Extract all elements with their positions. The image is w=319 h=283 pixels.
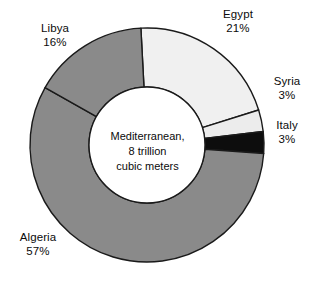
slice-label-egypt-percent: 21% — [205, 22, 271, 36]
slice-label-italy-percent: 3% — [258, 133, 316, 147]
slice-label-libya: Libya 16% — [22, 22, 88, 49]
slice-label-egypt-name: Egypt — [205, 8, 271, 22]
slice-label-algeria-name: Algeria — [2, 231, 74, 245]
slice-label-algeria-percent: 57% — [2, 245, 74, 259]
slice-label-syria-name: Syria — [258, 75, 316, 89]
slice-label-libya-name: Libya — [22, 22, 88, 36]
slice-label-egypt: Egypt 21% — [205, 8, 271, 35]
slice-label-italy-name: Italy — [258, 119, 316, 133]
slice-label-libya-percent: 16% — [22, 36, 88, 50]
slice-label-syria: Syria 3% — [258, 75, 316, 102]
center-annotation: Mediterranean, 8 trillion cubic meters — [95, 129, 200, 174]
center-line-3: cubic meters — [95, 159, 200, 174]
slice-label-syria-percent: 3% — [258, 89, 316, 103]
center-line-1: Mediterranean, — [95, 129, 200, 144]
center-line-2: 8 trillion — [95, 144, 200, 159]
slice-label-italy: Italy 3% — [258, 119, 316, 146]
donut-chart: Mediterranean, 8 trillion cubic meters E… — [0, 0, 319, 283]
slice-label-algeria: Algeria 57% — [2, 231, 74, 258]
